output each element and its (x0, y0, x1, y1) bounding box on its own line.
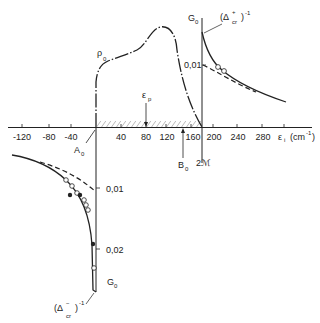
upper-g0-dashed-curve (203, 65, 256, 92)
upper-tick-label-001: 0,01 (184, 60, 202, 70)
svg-text:p: p (148, 96, 152, 102)
upper-open-point (222, 69, 227, 74)
lower-tick-label-002: 0,02 (106, 245, 124, 255)
svg-text:0: 0 (81, 151, 85, 157)
x-tick-label: 40 (116, 132, 126, 142)
lower-g0-solid-curve (12, 155, 96, 292)
delta-minus-annotation: (Δ − cr ) -1 (54, 293, 94, 319)
x-tick-label: 160 (185, 132, 200, 142)
lower-open-points (64, 178, 97, 271)
x-tick-label: 120 (159, 132, 174, 142)
svg-text:G: G (107, 277, 114, 287)
delta-plus-annotation: (Δ + cr ) -1 (204, 9, 251, 33)
x-axis-label: ε i (cm -1 ) (278, 130, 315, 143)
svg-text:A: A (74, 145, 80, 155)
svg-text:0: 0 (195, 19, 199, 25)
svg-text:cr: cr (66, 313, 71, 319)
svg-text:0: 0 (114, 283, 118, 289)
svg-text:(Δ: (Δ (220, 12, 229, 22)
two-m-label: 2ℳ (196, 158, 211, 168)
hatched-band (97, 121, 201, 127)
x-tick-label: 240 (230, 132, 245, 142)
svg-text:0: 0 (185, 166, 189, 172)
svg-text:cr: cr (232, 19, 237, 25)
upper-open-point (216, 65, 221, 70)
svg-text:(Δ: (Δ (54, 303, 63, 313)
svg-text:): ) (312, 132, 315, 142)
svg-text:-1: -1 (79, 300, 85, 306)
upper-g0-solid-curve (202, 32, 286, 102)
svg-text:−: − (66, 300, 70, 306)
diagram-canvas: -120 -80 -40 40 80 120 160 200 240 280 ε… (0, 0, 320, 323)
lower-g0-label: G 0 (107, 277, 118, 289)
svg-text:i: i (284, 137, 285, 143)
svg-text:G: G (188, 13, 195, 23)
x-tick-label: 280 (255, 132, 270, 142)
x-tick-label: -80 (42, 132, 55, 142)
svg-text:ρ: ρ (97, 48, 102, 58)
svg-text:ε: ε (142, 90, 146, 100)
x-tick-label: 80 (141, 132, 151, 142)
lower-tick-label-001: 0,01 (106, 184, 124, 194)
x-tick-label: -120 (13, 132, 31, 142)
svg-text:(cm: (cm (290, 132, 305, 142)
svg-text:): ) (241, 12, 244, 22)
rho0-curve (96, 27, 202, 127)
x-tick-label: 200 (206, 132, 221, 142)
rho0-label: ρ 0 (97, 48, 107, 62)
svg-text:-1: -1 (245, 10, 251, 16)
svg-text:): ) (75, 303, 78, 313)
svg-text:B: B (178, 160, 184, 170)
x-tick-labels: -120 -80 -40 40 80 120 160 200 240 280 (13, 132, 271, 142)
svg-text:ε: ε (278, 132, 282, 142)
svg-text:+: + (232, 9, 236, 15)
upper-g0-label: G 0 (188, 13, 199, 25)
x-tick-label: -40 (64, 132, 77, 142)
